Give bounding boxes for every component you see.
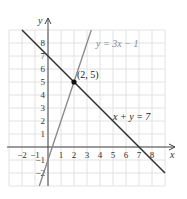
grid: [9, 30, 165, 186]
x-tick-label: −2: [17, 150, 27, 160]
y-tick-label: 1: [41, 129, 46, 139]
y-tick-label: 8: [41, 38, 46, 48]
x-tick-label: 4: [98, 150, 103, 160]
y-tick-label: −1: [35, 155, 45, 165]
y-tick-label: 2: [41, 116, 46, 126]
intersection-point: [71, 79, 76, 84]
x-axis-label: x: [169, 149, 175, 160]
y-axis-label: y: [37, 15, 43, 26]
x-tick-label: 5: [111, 150, 116, 160]
x-tick-label: 1: [59, 150, 64, 160]
series-line: [22, 30, 165, 173]
x-tick-label: 2: [72, 150, 77, 160]
y-tick-label: 4: [41, 90, 46, 100]
line-label-x-plus-y-eq-7: x + y = 7: [112, 111, 151, 122]
graph: −2−112345678−2−112345678 (2, 5) y = 3x −…: [0, 0, 187, 199]
y-tick-label: 5: [41, 77, 46, 87]
line-label-y-eq-3x-minus-1: y = 3x − 1: [95, 38, 138, 49]
x-tick-label: 3: [85, 150, 90, 160]
x-tick-label: 7: [137, 150, 142, 160]
y-tick-label: 3: [41, 103, 46, 113]
x-tick-label: 6: [124, 150, 129, 160]
y-tick-label: 6: [41, 64, 46, 74]
intersection-label: (2, 5): [77, 69, 99, 81]
